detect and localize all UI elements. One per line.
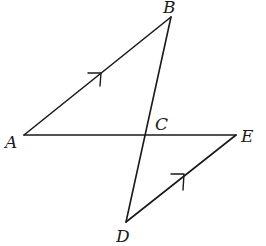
point-label-b: B xyxy=(162,0,176,17)
point-label-e: E xyxy=(240,126,254,146)
point-label-a: A xyxy=(3,132,17,152)
point-label-c: C xyxy=(155,114,168,134)
triangle-diagram: B A C E D xyxy=(0,0,266,246)
point-label-d: D xyxy=(115,226,130,246)
